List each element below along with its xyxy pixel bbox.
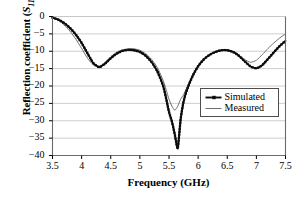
series-marker (254, 67, 256, 69)
series-marker (102, 64, 104, 66)
series-marker (95, 64, 97, 66)
series-marker (82, 44, 84, 46)
series-marker (57, 18, 59, 20)
series-marker (109, 58, 111, 60)
series-marker (215, 51, 217, 53)
series-marker (174, 137, 176, 139)
x-tick-label: 5.5 (154, 160, 184, 171)
series-marker (180, 116, 182, 118)
series-marker (164, 91, 166, 93)
y-tick-label: −35 (19, 131, 45, 142)
series-marker (227, 49, 229, 51)
series-marker (121, 50, 123, 52)
series-marker (278, 45, 280, 47)
series-marker (224, 49, 226, 51)
series-marker (85, 49, 87, 51)
series-marker (189, 81, 191, 83)
series-marker (276, 48, 278, 50)
series-marker (230, 50, 232, 52)
series-marker (251, 66, 253, 68)
series-marker (191, 76, 193, 78)
series-marker (144, 54, 146, 56)
series-marker (158, 74, 160, 76)
series-marker (268, 56, 270, 58)
series-marker (97, 66, 99, 68)
series-marker (177, 143, 179, 145)
series-marker (142, 53, 144, 55)
series-marker (146, 56, 148, 58)
series-marker (69, 27, 71, 29)
series-marker (168, 111, 170, 113)
series-marker (272, 52, 274, 54)
series-marker (240, 57, 242, 59)
series-marker (178, 134, 180, 136)
series-marker (218, 50, 220, 52)
series-marker (257, 66, 259, 68)
series-marker (179, 128, 181, 130)
series-marker (192, 73, 194, 75)
series-marker (201, 61, 203, 63)
series-marker (119, 51, 121, 53)
legend-marker (212, 96, 215, 99)
series-marker (264, 61, 266, 63)
series-marker (270, 54, 272, 56)
series-marker (71, 29, 73, 31)
series-marker (160, 79, 162, 81)
series-marker (83, 47, 85, 49)
series-marker (167, 108, 169, 110)
series-marker (105, 62, 107, 64)
series-marker (183, 98, 185, 100)
series-marker (154, 66, 156, 68)
series-marker (185, 90, 187, 92)
series-marker (100, 65, 102, 67)
series-marker (266, 59, 268, 61)
series-marker (88, 54, 90, 56)
series-marker (159, 77, 161, 79)
series-marker (116, 52, 118, 54)
series-marker (80, 41, 82, 43)
series-marker (195, 68, 197, 70)
series-marker (177, 146, 179, 148)
series-marker (187, 87, 189, 89)
series-marker (133, 49, 135, 51)
series-marker (242, 59, 244, 61)
series-marker (194, 70, 196, 72)
series-marker (184, 95, 186, 97)
series-marker (283, 41, 285, 43)
series-marker (182, 101, 184, 103)
series-marker (203, 58, 205, 60)
series-marker (148, 58, 150, 60)
series-marker (260, 65, 262, 67)
series-marker (150, 61, 152, 63)
series-marker (173, 129, 175, 131)
series-marker (86, 52, 88, 54)
series-marker (179, 122, 181, 124)
x-tick-label: 5 (125, 160, 155, 171)
series-marker (199, 63, 201, 65)
y-tick-label: −25 (19, 96, 45, 107)
series-marker (178, 131, 180, 133)
series-marker (161, 82, 163, 84)
series-marker (124, 49, 126, 51)
series-marker (274, 50, 276, 52)
series-marker (157, 71, 159, 73)
x-tick-label: 6 (183, 160, 213, 171)
x-tick-label: 4 (67, 160, 97, 171)
series-marker (67, 25, 69, 27)
series-marker (164, 94, 166, 96)
series-marker (197, 65, 199, 67)
y-tick-label: −15 (19, 62, 45, 73)
series-marker (262, 63, 264, 65)
series-marker (162, 85, 164, 87)
series-marker (175, 140, 177, 142)
series-marker (171, 123, 173, 125)
series-marker (170, 117, 172, 119)
series-marker (179, 119, 181, 121)
series-marker (188, 84, 190, 86)
series-marker (77, 36, 79, 38)
series-marker (169, 114, 171, 116)
y-tick-label: −30 (19, 114, 45, 125)
series-marker (73, 32, 75, 34)
series-marker (171, 120, 173, 122)
legend-label-simulated: Simulated (225, 91, 266, 102)
